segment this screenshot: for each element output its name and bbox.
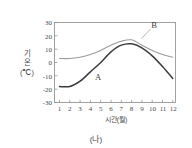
y-axis-title: 기 온 (℃) [20, 49, 34, 77]
chart-canvas: 30 20 10 0 -10 -20 -30 기 온 (℃) [0, 0, 192, 148]
x-tick-label: 1 [58, 105, 62, 113]
x-axis-tick-labels: 1 2 3 4 5 6 7 8 9 10 11 12 [58, 105, 177, 113]
y-tick-label: 0 [49, 59, 53, 67]
y-axis-title-line: 온 [24, 58, 31, 67]
y-axis-title-line: 기 [24, 49, 31, 58]
y-axis-tick-labels: 30 20 10 0 -10 -20 -30 [43, 19, 53, 107]
series-label-b: B [151, 20, 157, 30]
plot-frame [55, 23, 176, 103]
y-tick-label: -10 [43, 73, 53, 81]
series-line-b [60, 40, 173, 59]
x-tick-label: 10 [149, 105, 157, 113]
x-tick-label: 2 [68, 105, 72, 113]
series-line-a [60, 44, 173, 87]
y-tick-label: 20 [45, 33, 53, 41]
series-label-a: A [95, 72, 102, 82]
y-tick-label: 10 [45, 46, 53, 54]
x-tick-label: 3 [78, 105, 82, 113]
y-axis-title-line: (℃) [20, 68, 34, 77]
y-tick-label: -20 [43, 86, 53, 94]
series-b-leader-line [142, 29, 151, 39]
x-tick-label: 4 [89, 105, 93, 113]
y-axis-ticks [55, 23, 58, 103]
y-tick-label: 30 [45, 19, 53, 27]
x-tick-label: 6 [109, 105, 113, 113]
temperature-line-chart-figure: 30 20 10 0 -10 -20 -30 기 온 (℃) [0, 0, 192, 148]
y-tick-label: -30 [43, 99, 53, 107]
x-tick-label: 12 [170, 105, 178, 113]
x-tick-label: 7 [120, 105, 124, 113]
x-tick-label: 9 [140, 105, 144, 113]
figure-caption: (나) [90, 135, 103, 144]
x-axis-ticks [60, 100, 173, 103]
x-axis-title: 시간(월) [105, 115, 128, 124]
x-tick-label: 8 [130, 105, 134, 113]
x-tick-label: 5 [99, 105, 103, 113]
x-tick-label: 11 [160, 105, 167, 113]
